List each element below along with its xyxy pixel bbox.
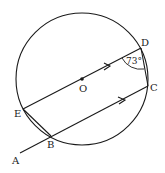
diagram-canvas: D C O E B A 73° bbox=[0, 0, 165, 173]
chord-EB bbox=[23, 109, 51, 136]
label-O: O bbox=[79, 83, 87, 94]
center-point-O bbox=[80, 77, 84, 81]
label-D: D bbox=[141, 37, 149, 48]
label-B: B bbox=[47, 139, 54, 150]
line-AC bbox=[20, 86, 148, 153]
angle-label-D: 73° bbox=[126, 56, 142, 66]
label-C: C bbox=[150, 82, 158, 93]
geometry-diagram: D C O E B A 73° bbox=[0, 0, 165, 173]
label-E: E bbox=[14, 108, 21, 119]
label-A: A bbox=[11, 155, 20, 166]
